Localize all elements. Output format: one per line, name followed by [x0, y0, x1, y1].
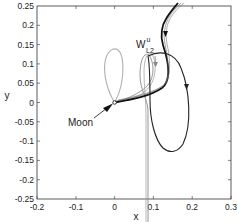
manifold-label: W	[136, 39, 146, 50]
x-ticks	[37, 6, 231, 199]
x-tick-label: 0.3	[225, 202, 237, 212]
y-tick-label: 0.25	[17, 1, 34, 11]
y-tick-label: -0.15	[15, 155, 35, 165]
y-tick-label: -0.05	[15, 117, 35, 127]
manifold-label-sup: u	[147, 36, 151, 43]
y-tick-label: 0	[29, 98, 34, 108]
manifold-branch-curve-2	[115, 53, 156, 222]
loop-arrow-head-icon	[184, 84, 189, 90]
plot-svg: -0.2 -0.1 0 0.1 0.2 0.3 0.25 0.2 0.15 0.…	[0, 0, 237, 222]
trajectory-arrow-head-icon	[163, 31, 168, 37]
y-tick-label: 0.05	[17, 78, 34, 88]
manifold-branch-curve	[115, 54, 153, 222]
x-tick-label: -0.1	[69, 202, 84, 212]
y-tick-label: 0.2	[22, 20, 34, 30]
moon-loop-curve	[105, 49, 123, 103]
moon-marker	[113, 101, 117, 105]
moon-label: Moon	[68, 117, 93, 128]
y-ticks	[37, 25, 231, 179]
x-tick-label: 0.1	[147, 202, 159, 212]
axes-box	[37, 6, 231, 199]
chart-figure: -0.2 -0.1 0 0.1 0.2 0.3 0.25 0.2 0.15 0.…	[0, 0, 237, 222]
y-tick-label: -0.1	[19, 136, 34, 146]
y-tick-label: 0.1	[22, 59, 34, 69]
x-tick-label: 0.2	[186, 202, 198, 212]
y-tick-labels: 0.25 0.2 0.15 0.1 0.05 0 -0.05 -0.1 -0.1…	[15, 1, 35, 204]
moon-arrow-head-icon	[103, 104, 113, 113]
manifold-arrow-head-icon	[153, 62, 158, 67]
y-tick-label: -0.2	[19, 175, 34, 185]
y-tick-label: 0.15	[17, 40, 34, 50]
y-tick-label: -0.25	[15, 194, 35, 204]
manifold-label-sub: L2	[146, 47, 154, 54]
x-tick-label: 0	[112, 202, 117, 212]
x-axis-label: x	[134, 211, 139, 222]
y-axis-label: y	[5, 90, 10, 101]
